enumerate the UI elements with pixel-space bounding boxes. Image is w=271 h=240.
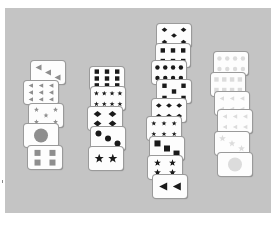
card-3-light-star [215, 132, 249, 155]
card-6-light-triangle [218, 110, 252, 133]
star-icon [215, 132, 249, 155]
card-2-black-star [89, 147, 123, 170]
square-icon [28, 146, 62, 169]
circle-icon [24, 124, 58, 147]
card-9-gray-triangle [24, 81, 58, 104]
card-2-black-triangle [153, 175, 187, 198]
card-8-light-circle [214, 52, 248, 75]
card-1-light-circle [218, 153, 252, 176]
star-icon [89, 147, 123, 170]
triangle-icon [24, 81, 58, 104]
circle-icon [214, 52, 248, 75]
card-4-gray-square [28, 146, 62, 169]
triangle-icon [153, 175, 187, 198]
circle-icon [218, 153, 252, 176]
stray-mark [2, 180, 3, 183]
card-1-gray-circle [24, 124, 58, 147]
triangle-icon [218, 110, 252, 133]
